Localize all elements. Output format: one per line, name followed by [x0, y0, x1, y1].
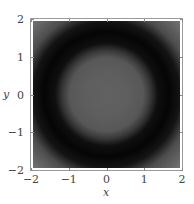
x-tick-label: 2	[179, 174, 186, 185]
x-axis-label: x	[103, 187, 109, 198]
plot-frame	[30, 18, 183, 171]
plot-area	[33, 21, 180, 168]
x-tick-mark-top	[144, 19, 145, 22]
y-tick-label: −2	[0, 165, 24, 176]
x-tick-mark-top	[107, 19, 108, 22]
y-tick-mark-right	[180, 19, 183, 20]
y-tick-mark	[31, 132, 34, 133]
y-tick-label: 1	[0, 51, 24, 62]
x-tick-label: −2	[23, 174, 39, 185]
y-tick-mark-right	[180, 95, 183, 96]
y-tick-mark	[31, 170, 34, 171]
y-tick-mark-right	[180, 170, 183, 171]
y-tick-mark-right	[180, 57, 183, 58]
y-tick-label: −1	[0, 127, 24, 138]
x-tick-label: −1	[61, 174, 77, 185]
y-tick-label: 2	[0, 14, 24, 25]
x-tick-label: 1	[141, 174, 148, 185]
x-tick-mark	[144, 168, 145, 171]
y-tick-mark	[31, 95, 34, 96]
x-tick-mark	[107, 168, 108, 171]
x-tick-mark	[69, 168, 70, 171]
y-axis-label: y	[3, 89, 9, 100]
y-tick-mark-right	[180, 132, 183, 133]
density-plot-figure: −2−1012210−1−2 x y	[0, 0, 194, 204]
density-heatmap	[33, 21, 180, 168]
x-tick-label: 0	[103, 174, 110, 185]
y-tick-mark	[31, 19, 34, 20]
x-tick-mark-top	[69, 19, 70, 22]
y-tick-mark	[31, 57, 34, 58]
